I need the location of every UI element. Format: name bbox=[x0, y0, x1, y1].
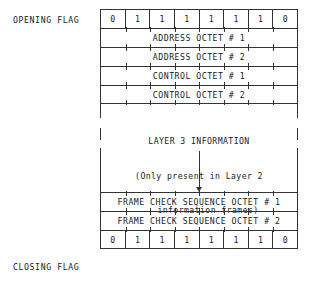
flag-bit: 1 bbox=[224, 10, 249, 28]
frame-structure-table: 0 1 1 1 1 1 1 0 ADDRESS OCTET # 1 ADDRES… bbox=[100, 9, 298, 249]
closing-flag-bits: 0 1 1 1 1 1 1 0 bbox=[101, 231, 297, 248]
opening-flag-label: OPENING FLAG bbox=[13, 15, 79, 25]
flag-bit: 0 bbox=[101, 231, 126, 248]
flag-bit: 1 bbox=[126, 10, 151, 28]
layer3-line-1: LAYER 3 INFORMATION bbox=[100, 136, 298, 148]
opening-flag-row: 0 1 1 1 1 1 1 0 bbox=[100, 9, 298, 28]
address-octet-2-row: ADDRESS OCTET # 2 bbox=[100, 47, 298, 66]
fcs-octet-1-label: FRAME CHECK SEQUENCE OCTET # 1 bbox=[101, 193, 297, 211]
fcs-octet-2-label: FRAME CHECK SEQUENCE OCTET # 2 bbox=[101, 212, 297, 230]
flag-bit: 1 bbox=[249, 231, 274, 248]
fcs-octet-2-row: FRAME CHECK SEQUENCE OCTET # 2 bbox=[100, 211, 298, 230]
opening-flag-bits: 0 1 1 1 1 1 1 0 bbox=[101, 10, 297, 28]
address-octet-1-label: ADDRESS OCTET # 1 bbox=[101, 29, 297, 47]
control-octet-2-label: CONTROL OCTET # 2 bbox=[101, 86, 297, 103]
flag-bit: 1 bbox=[150, 10, 175, 28]
flag-bit: 1 bbox=[126, 231, 151, 248]
control-octet-1-label: CONTROL OCTET # 1 bbox=[101, 67, 297, 85]
flag-bit: 1 bbox=[150, 231, 175, 248]
arrow-shaft bbox=[199, 151, 200, 187]
address-octet-1-row: ADDRESS OCTET # 1 bbox=[100, 28, 298, 47]
flag-bit: 1 bbox=[175, 10, 200, 28]
flag-bit: 1 bbox=[224, 231, 249, 248]
flag-bit: 1 bbox=[200, 231, 225, 248]
flag-bit: 0 bbox=[273, 231, 297, 248]
flag-bit: 0 bbox=[101, 10, 126, 28]
flag-bit: 1 bbox=[200, 10, 225, 28]
control-octet-1-row: CONTROL OCTET # 1 bbox=[100, 66, 298, 85]
control-octet-2-row: CONTROL OCTET # 2 bbox=[100, 85, 298, 104]
flag-bit: 1 bbox=[175, 231, 200, 248]
closing-flag-label: CLOSING FLAG bbox=[13, 262, 79, 272]
arrow-head-icon bbox=[196, 187, 202, 192]
closing-flag-row: 0 1 1 1 1 1 1 0 bbox=[100, 230, 298, 249]
address-octet-2-label: ADDRESS OCTET # 2 bbox=[101, 48, 297, 66]
fcs-octet-1-row: FRAME CHECK SEQUENCE OCTET # 1 bbox=[100, 192, 298, 211]
hdlc-frame-diagram: OPENING FLAG CLOSING FLAG 0 1 1 1 1 1 1 … bbox=[0, 0, 315, 283]
flag-bit: 1 bbox=[249, 10, 274, 28]
layer3-information-region: LAYER 3 INFORMATION (Only present in Lay… bbox=[100, 104, 298, 192]
flag-bit: 0 bbox=[273, 10, 297, 28]
